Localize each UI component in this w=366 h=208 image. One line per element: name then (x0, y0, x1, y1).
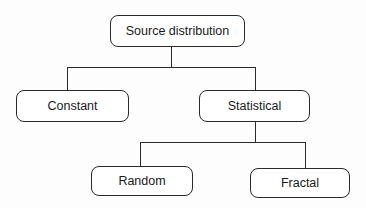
node-random: Random (91, 166, 193, 196)
node-label: Source distribution (126, 24, 230, 38)
connector-to-statistical (255, 67, 256, 90)
connector-to-fractal (305, 142, 306, 168)
connector-to-random (140, 142, 141, 166)
connector-statistical-down (255, 122, 256, 143)
connector-level1-horizontal (67, 67, 256, 68)
node-label: Random (118, 174, 165, 188)
node-label: Statistical (228, 99, 282, 113)
node-label: Fractal (281, 176, 319, 190)
connector-to-constant (67, 67, 68, 90)
node-constant: Constant (16, 90, 129, 122)
connector-level2-horizontal (140, 142, 306, 143)
node-statistical: Statistical (199, 90, 310, 122)
node-source-distribution: Source distribution (110, 15, 245, 47)
node-fractal: Fractal (250, 168, 350, 198)
diagram-canvas: Source distribution Constant Statistical… (0, 0, 366, 208)
connector-root-down (171, 47, 172, 68)
node-label: Constant (47, 99, 97, 113)
